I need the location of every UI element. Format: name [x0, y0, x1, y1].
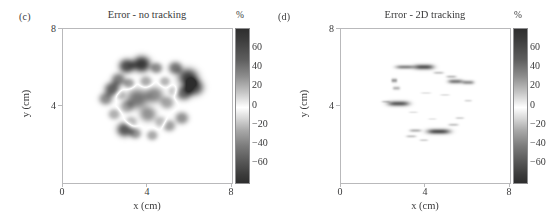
x-tick-mark-8 [231, 183, 232, 187]
x-axis-title: x (cm) [62, 200, 232, 211]
x-tick-label-0: 0 [52, 186, 72, 197]
colorbar [513, 28, 528, 184]
panel-label: (c) [19, 11, 31, 22]
x-tick-label-0: 0 [330, 186, 350, 197]
colorbar-tick-m20: −20 [530, 118, 549, 129]
y-tick-label-4: 4 [318, 100, 334, 111]
colorbar [235, 28, 250, 184]
panel-label: (d) [278, 11, 290, 22]
x-tick-label-8: 8 [221, 186, 241, 197]
plot-area [62, 28, 233, 184]
colorbar-unit-label: % [514, 10, 522, 20]
panel-error-2d-tracking: (d) Error - 2D tracking 8 4 0 4 8 x (cm)… [275, 0, 549, 220]
colorbar-tick-m60: −60 [530, 156, 549, 167]
x-tick-mark-4 [146, 183, 147, 187]
y-axis-title: y (cm) [20, 90, 31, 118]
y-tick-label-8: 8 [40, 23, 56, 34]
y-tick-mark-4 [58, 105, 62, 106]
panel-error-no-tracking: (c) Error - no tracking 8 4 0 4 8 x (cm)… [0, 0, 274, 220]
colorbar-tick-20: 20 [530, 79, 549, 90]
panel-title: Error - no tracking [62, 9, 232, 20]
x-tick-mark-0 [62, 183, 63, 187]
y-tick-label-8: 8 [318, 23, 334, 34]
y-tick-mark-8 [336, 28, 340, 29]
colorbar-tick-60: 60 [530, 41, 549, 52]
y-tick-mark-8 [58, 28, 62, 29]
colorbar-unit-label: % [236, 10, 244, 20]
plot-area [340, 28, 511, 184]
x-tick-label-4: 4 [415, 186, 435, 197]
x-tick-mark-8 [509, 183, 510, 187]
figure-error-maps: (c) Error - no tracking 8 4 0 4 8 x (cm)… [0, 0, 549, 220]
x-tick-label-4: 4 [137, 186, 157, 197]
y-tick-mark-4 [336, 105, 340, 106]
panel-title: Error - 2D tracking [340, 9, 510, 20]
x-tick-mark-0 [340, 183, 341, 187]
colorbar-tick-m40: −40 [530, 137, 549, 148]
colorbar-tick-40: 40 [530, 60, 549, 71]
colorbar-tick-0: 0 [530, 99, 549, 110]
x-tick-mark-4 [424, 183, 425, 187]
x-tick-label-8: 8 [499, 186, 519, 197]
heatmap-canvas [341, 29, 510, 183]
heatmap-canvas [63, 29, 232, 183]
y-tick-label-4: 4 [40, 100, 56, 111]
x-axis-title: x (cm) [340, 200, 510, 211]
y-axis-title: y (cm) [298, 90, 309, 118]
